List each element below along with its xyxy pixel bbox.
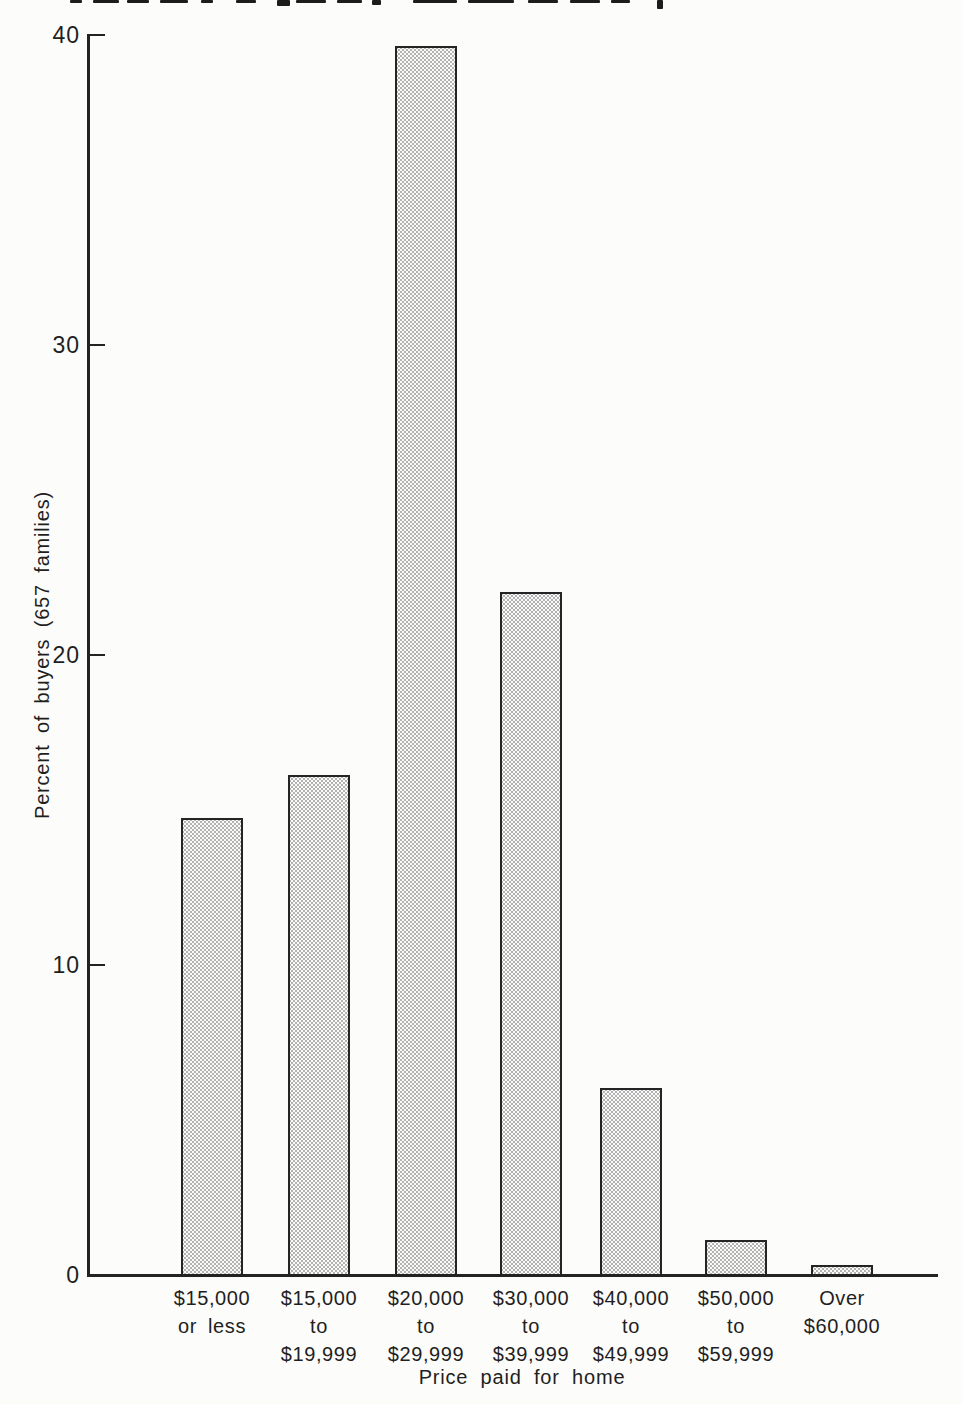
y-tick-label: 10	[34, 952, 80, 978]
bar	[288, 775, 350, 1274]
cropped-text-fragment	[201, 0, 213, 3]
y-axis-tick	[90, 964, 105, 966]
cropped-text-fragment	[296, 0, 326, 3]
cropped-text-fragment	[277, 0, 290, 6]
x-category-label: Over$60,000	[762, 1284, 922, 1340]
cropped-text-fragment	[570, 0, 600, 3]
y-tick-label: 40	[34, 22, 80, 48]
bar	[811, 1265, 873, 1274]
y-tick-label: 30	[34, 332, 80, 358]
cropped-text-fragment	[528, 0, 558, 3]
scanned-book-page: 010203040$15,000or less$15,000to$19,999$…	[0, 0, 962, 1404]
y-axis-tick	[90, 654, 105, 656]
x-category-label-line: $60,000	[762, 1312, 922, 1340]
cropped-text-fragment	[413, 0, 457, 3]
y-tick-label: 0	[34, 1262, 80, 1288]
y-axis-tick	[90, 344, 105, 346]
bar	[600, 1088, 662, 1274]
cropped-text-fragment	[611, 0, 630, 3]
bar	[500, 592, 562, 1274]
y-axis-title: Percent of buyers (657 families)	[29, 455, 55, 855]
y-axis-tick	[90, 34, 105, 36]
cropped-text-fragment	[468, 0, 514, 3]
cropped-text-fragment	[93, 0, 119, 3]
x-category-label-line: Over	[762, 1284, 922, 1312]
bar	[705, 1240, 767, 1274]
bar	[395, 46, 457, 1274]
x-axis-line	[87, 1274, 938, 1277]
cropped-text-fragment	[70, 0, 82, 3]
bar	[181, 818, 243, 1274]
cropped-text-fragment	[127, 0, 149, 3]
cropped-text-fragment	[657, 0, 663, 9]
cropped-text-fragment	[236, 0, 256, 3]
x-category-label-line: $59,999	[656, 1340, 816, 1368]
cropped-text-fragment	[160, 0, 188, 3]
x-axis-title: Price paid for home	[332, 1366, 712, 1389]
cropped-text-fragment	[337, 0, 362, 3]
cropped-text-fragment	[372, 0, 381, 5]
